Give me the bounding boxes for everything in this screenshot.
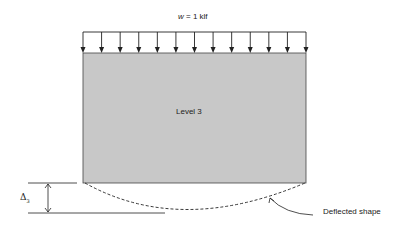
deflection-dimension-arrow <box>45 184 51 212</box>
distributed-load <box>81 32 309 53</box>
deflected-shape-label: Deflected shape <box>323 207 381 216</box>
deflected-shape-curve <box>85 183 305 210</box>
deflection-label: Δ3 <box>20 192 30 204</box>
leader-arrow <box>269 198 313 215</box>
floor-label: Level 3 <box>176 107 202 116</box>
load-label: w = 1 klf <box>178 12 208 21</box>
floor-block <box>83 53 306 183</box>
diagram-canvas <box>0 0 408 231</box>
